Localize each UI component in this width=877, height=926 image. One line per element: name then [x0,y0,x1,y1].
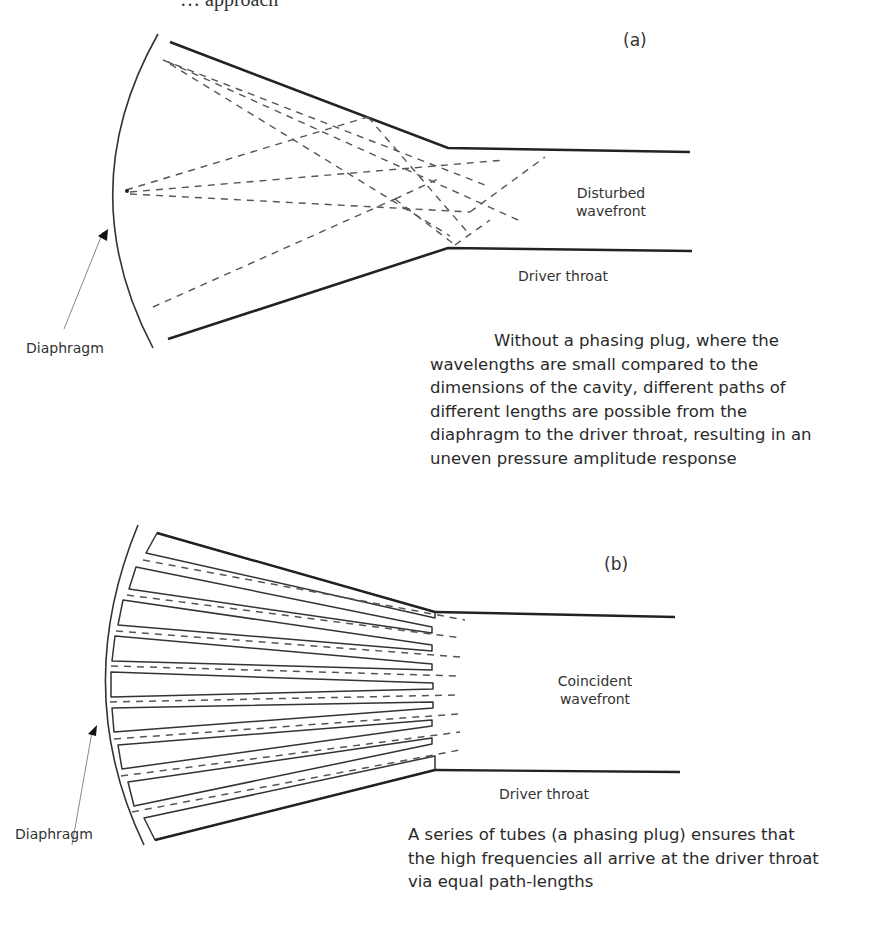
horn-wall-top-a [170,42,690,152]
panel-a-label: (a) [623,30,647,50]
throat-wall-top-b [435,612,675,617]
sound-source-point [125,189,129,193]
disturbed-wavefront-label: Disturbed wavefront [566,184,656,220]
panel-b-caption: A series of tubes (a phasing plug) ensur… [408,823,819,894]
reflection-paths [126,60,545,307]
arrowhead-icon-b [88,725,97,736]
coincident-wavefront-label: Coincident wavefront [550,672,640,708]
driver-throat-label-b: Driver throat [499,785,589,803]
driver-throat-label-a: Driver throat [518,267,608,285]
panel-b-label: (b) [604,554,628,574]
throat-wall-bottom-b [435,770,680,772]
panel-a-caption: Without a phasing plug, where the wavele… [430,329,812,470]
phasing-plug-tubes [111,533,435,840]
horn-wall-bottom-a [168,248,692,339]
diaphragm-label-b: Diaphragm [15,825,93,843]
arrowhead-icon [98,229,108,241]
diaphragm-label-a: Diaphragm [26,339,104,357]
